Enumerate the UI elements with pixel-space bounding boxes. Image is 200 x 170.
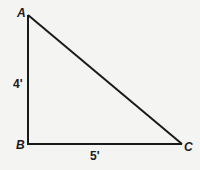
side-bc-length-label: 5' <box>90 150 100 162</box>
vertex-label-c: C <box>184 141 193 153</box>
vertex-label-b: B <box>16 139 25 151</box>
side-ab-length-label: 4' <box>13 78 23 90</box>
side-ac-hypotenuse <box>28 15 182 144</box>
triangle-diagram <box>0 0 200 170</box>
vertex-label-a: A <box>17 7 26 19</box>
